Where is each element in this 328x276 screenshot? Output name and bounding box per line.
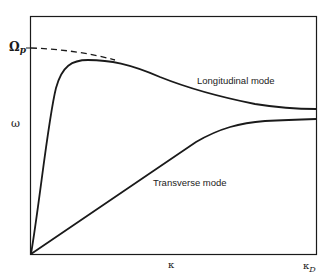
plasma-frequency-dashed-curve bbox=[31, 48, 115, 60]
plasma-frequency-symbol: Ω bbox=[9, 40, 20, 54]
y-axis-label: ω bbox=[11, 118, 20, 129]
plasma-frequency-subscript: p bbox=[20, 45, 26, 55]
x-max-subscript: D bbox=[309, 265, 315, 274]
x-axis-label: κ bbox=[168, 260, 174, 270]
x-max-label: κD bbox=[303, 261, 316, 274]
transverse-mode-label: Transverse mode bbox=[153, 178, 227, 188]
longitudinal-mode-label: Longitudinal mode bbox=[197, 76, 275, 86]
plasma-frequency-label: Ωp bbox=[9, 41, 26, 55]
dispersion-diagram bbox=[0, 0, 328, 276]
